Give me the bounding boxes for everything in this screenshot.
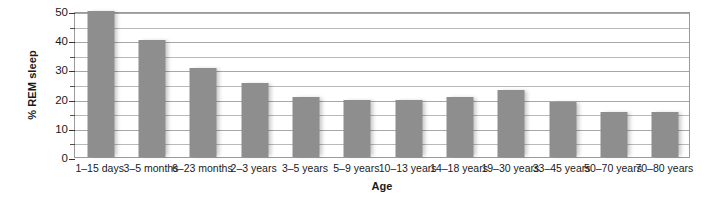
y-axis-tick-labels: 01020304050 — [42, 12, 72, 158]
x-axis-tick-label: 3–5 months — [124, 162, 179, 174]
y-axis-tick-mark — [69, 159, 75, 160]
bar — [600, 112, 627, 157]
bar-slot — [640, 13, 691, 157]
bar-series — [75, 13, 689, 157]
bar-slot — [434, 13, 485, 157]
bar-slot — [178, 13, 229, 157]
x-axis-tick-labels: 1–15 days3–5 months6–23 months2–3 years3… — [74, 162, 690, 178]
bar — [87, 11, 114, 157]
bar-slot — [537, 13, 588, 157]
bar-slot — [75, 13, 126, 157]
x-axis-tick-label: 6–23 months — [172, 162, 233, 174]
y-axis-title-container: % REM sleep — [22, 12, 42, 158]
y-axis-tick-label: 20 — [55, 94, 68, 106]
bar-slot — [229, 13, 280, 157]
x-axis-tick-label: 2–3 years — [231, 162, 277, 174]
bar — [241, 83, 268, 157]
x-axis-tick-label: 33–45 years — [533, 162, 591, 174]
x-axis-tick-label: 5–9 years — [333, 162, 379, 174]
y-axis-tick-label: 40 — [55, 35, 68, 47]
y-axis-tick-label: 30 — [55, 64, 68, 76]
x-axis-tick-label: 14–18 years — [430, 162, 488, 174]
bar — [498, 90, 525, 157]
y-axis-title: % REM sleep — [26, 50, 38, 120]
bar-slot — [280, 13, 331, 157]
bar — [549, 102, 576, 157]
y-axis-tick-label: 0 — [62, 152, 68, 164]
x-axis-tick-label: 1–15 days — [75, 162, 123, 174]
bar-slot — [332, 13, 383, 157]
x-axis-tick-label: 10–13 years — [379, 162, 437, 174]
bar — [395, 100, 422, 157]
bar-slot — [383, 13, 434, 157]
bar-slot — [486, 13, 537, 157]
bar — [446, 97, 473, 157]
bar-slot — [126, 13, 177, 157]
rem-sleep-bar-chart: % REM sleep 01020304050 1–15 days3–5 mon… — [0, 0, 721, 198]
x-axis-tick-label: 50–70 years — [584, 162, 642, 174]
x-axis-tick-label: 19–30 years — [481, 162, 539, 174]
bar-slot — [588, 13, 639, 157]
y-axis-tick-label: 10 — [55, 123, 68, 135]
bar — [138, 40, 165, 157]
bar — [344, 100, 371, 157]
y-axis-tick-label: 50 — [55, 6, 68, 18]
x-axis-tick-label: 3–5 years — [282, 162, 328, 174]
x-axis-tick-label: 70–80 years — [635, 162, 693, 174]
bar — [292, 97, 319, 157]
plot-area — [74, 12, 690, 158]
x-axis-title: Age — [74, 180, 690, 192]
bar — [652, 112, 679, 157]
bar — [190, 68, 217, 157]
